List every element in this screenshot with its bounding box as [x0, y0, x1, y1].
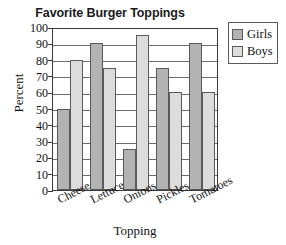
legend-swatch-boys [232, 46, 243, 57]
y-axis-tick-label: 70 [22, 71, 48, 83]
chart-legend: GirlsBoys [228, 22, 278, 64]
legend-item-girls: Girls [232, 26, 273, 43]
bar-onions-girls [123, 149, 136, 190]
plot-area [52, 28, 218, 191]
bar-tomatoes-boys [202, 92, 215, 190]
bar-onions-boys [136, 35, 149, 190]
y-axis-tick-label: 100 [22, 22, 48, 34]
legend-item-boys: Boys [232, 43, 273, 60]
y-axis-tick-label: 50 [22, 104, 48, 116]
y-axis-tick-label: 10 [22, 169, 48, 181]
legend-label-girls: Girls [247, 28, 272, 41]
y-axis-tick-label: 90 [22, 38, 48, 50]
bar-pickles-boys [169, 92, 182, 190]
y-axis-tick-label: 40 [22, 120, 48, 132]
bar-tomatoes-girls [189, 43, 202, 190]
y-axis-tick-label: 80 [22, 55, 48, 67]
bar-chart-figure: Favorite Burger Toppings Percent 1009080… [0, 0, 286, 245]
y-axis-tick-label: 0 [22, 185, 48, 197]
y-axis-tick-label: 60 [22, 87, 48, 99]
bar-cheese-boys [70, 60, 83, 190]
bar-cheese-girls [57, 109, 70, 191]
y-axis-tick-labels: 1009080706050403020100 [20, 28, 48, 191]
bars-layer [53, 29, 217, 190]
bar-pickles-girls [156, 68, 169, 190]
y-axis-tick-label: 30 [22, 136, 48, 148]
legend-label-boys: Boys [247, 45, 273, 58]
chart-title: Favorite Burger Toppings [0, 6, 220, 20]
legend-swatch-girls [232, 29, 243, 40]
bar-lettuce-boys [103, 68, 116, 190]
x-axis-label: Topping [52, 223, 218, 239]
y-axis-tick-label: 20 [22, 152, 48, 164]
bar-lettuce-girls [90, 43, 103, 190]
